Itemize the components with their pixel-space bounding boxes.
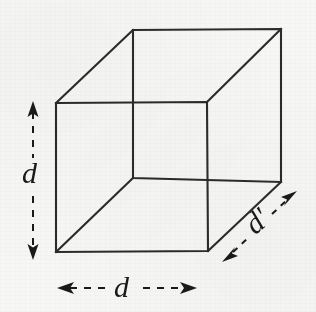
dimension-arrows [28,101,298,294]
width-dimension-label: d [114,272,129,302]
height-arrowhead-down [28,244,39,260]
figure-canvas [0,0,316,312]
cube-dimension-figure: d d d′ [0,0,316,312]
depth-arrow-shaft-lower [233,237,249,252]
width-arrowhead-right [180,282,197,294]
depth-arrow-shaft-upper [272,199,288,214]
cube-depth-edge-bottom-left [56,178,133,252]
cube-depth-edge-top-left [56,30,133,103]
height-dimension-label: d [22,158,37,188]
cube-depth-edge-top-right [207,29,281,102]
